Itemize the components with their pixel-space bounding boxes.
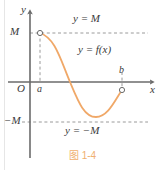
point-a-label: a — [37, 84, 42, 94]
lower-bound-annotation: y = −M — [65, 125, 99, 136]
point-b-label: b — [119, 65, 124, 75]
figure-container: y x O M −M a b y = M y = f(x) y = −M 图 1… — [0, 0, 165, 170]
y-axis-label: y — [21, 4, 26, 15]
upper-bound-tick-label: M — [10, 26, 19, 37]
open-point-a — [37, 30, 42, 35]
figure-caption: 图 1-4 — [0, 147, 165, 162]
curve-annotation: y = f(x) — [78, 44, 111, 55]
x-axis-label: x — [150, 84, 155, 95]
open-point-b — [119, 87, 124, 92]
upper-bound-annotation: y = M — [73, 13, 100, 24]
origin-label: O — [17, 83, 25, 94]
lower-bound-tick-label: −M — [4, 115, 21, 126]
